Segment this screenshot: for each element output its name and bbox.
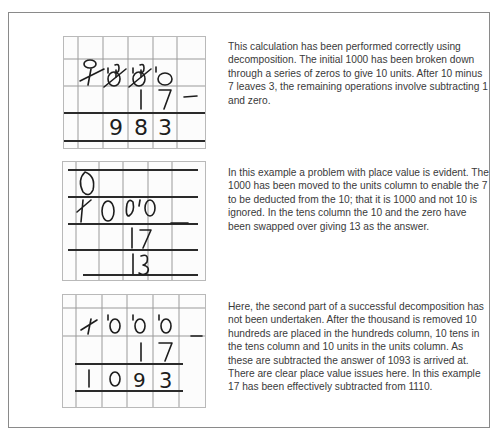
svg-text:9: 9	[133, 368, 146, 392]
description-3: Here, the second part of a successful de…	[228, 300, 490, 394]
svg-text:3: 3	[158, 115, 172, 140]
svg-text:9: 9	[109, 115, 123, 140]
description-1: This calculation has been performed corr…	[228, 40, 490, 107]
worked-example-2	[62, 161, 206, 281]
svg-text:8: 8	[134, 115, 148, 140]
worked-example-1: 9 8 3	[63, 36, 206, 149]
description-2: In this example a problem with place val…	[228, 166, 490, 233]
handwritten-subtraction-1: 9 8 3	[64, 37, 205, 148]
worked-example-3: 9 3	[62, 294, 206, 408]
handwritten-subtraction-3: 9 3	[63, 295, 205, 407]
handwritten-subtraction-2	[63, 162, 205, 280]
svg-text:3: 3	[159, 369, 172, 393]
